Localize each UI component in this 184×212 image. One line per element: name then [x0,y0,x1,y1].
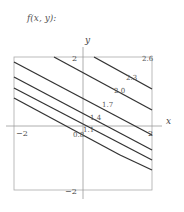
contour-label-1-1: 1.1 [83,126,94,134]
y-tick-top: 2 [72,54,77,63]
y-tick-bottom: −2 [65,187,77,196]
contour-label-2-0: 2.0 [114,87,125,95]
x-tick-right: 2 [148,129,153,138]
contour-label-2-3: 2.3 [126,74,137,82]
x-tick-left: −2 [16,129,28,138]
contour-plot: 0.8 1.1 1.4 1.7 2.0 2.3 2.6 y x 2 −2 −2 … [0,0,184,212]
contour-label-2-6: 2.6 [142,55,154,63]
contour-label-1-4: 1.4 [90,114,102,122]
contour-label-1-7: 1.7 [102,101,113,109]
y-axis-label: y [84,35,91,45]
x-axis-label: x [166,116,171,126]
